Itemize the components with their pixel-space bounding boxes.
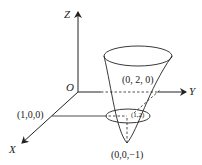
x-point-label: (1,0,0)	[17, 110, 44, 120]
paraboloid-surface	[104, 56, 172, 143]
z-axis-label: Z	[64, 9, 70, 20]
y-point-label: (0, 2, 0)	[122, 75, 154, 85]
paraboloid-top-rim	[104, 46, 172, 66]
cross-section-label: (1,2)	[131, 112, 144, 119]
y-axis-label: Y	[189, 86, 195, 97]
diagram-canvas	[0, 0, 202, 165]
paraboloid-diagram: Z Y X O (1,0,0) (0, 2, 0) (0,0,−1) (1,2)	[0, 0, 202, 165]
x-axis-label: X	[9, 144, 16, 155]
origin-label: O	[66, 82, 74, 93]
vertex-label: (0,0,−1)	[111, 150, 143, 160]
